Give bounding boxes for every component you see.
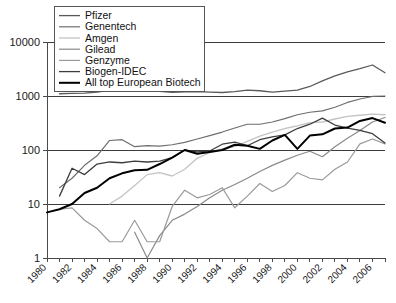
x-tick-label: 2004 <box>325 261 349 285</box>
x-tick-label: 1984 <box>75 261 99 285</box>
series-group <box>47 65 385 258</box>
x-tick-label: 2006 <box>350 261 374 285</box>
x-tick-label: 1980 <box>25 261 49 285</box>
legend-label: Biogen-IDEC <box>85 65 147 77</box>
x-tick-label: 1998 <box>250 261 274 285</box>
legend: PfizerGenentechAmgenGileadGenzymeBiogen-… <box>54 6 204 91</box>
x-tick-label: 1988 <box>125 261 149 285</box>
legend-label: Gilead <box>85 43 116 55</box>
y-tick-label: 100 <box>22 144 40 156</box>
line-chart: 1101001000100001980198219841986198819901… <box>0 0 396 303</box>
x-tick-label: 1990 <box>150 261 174 285</box>
x-tick-label: 1982 <box>50 261 74 285</box>
legend-label: Genentech <box>85 20 137 32</box>
x-tick-label: 2002 <box>300 261 324 285</box>
series-line-genentech <box>60 96 385 188</box>
x-tick-label: 1994 <box>200 261 224 285</box>
legend-label: Genzyme <box>85 54 130 66</box>
y-tick-label: 10000 <box>9 36 40 48</box>
y-axis: 110100100010000 <box>9 36 47 264</box>
legend-label: Pfizer <box>85 9 112 21</box>
x-tick-label: 2000 <box>275 261 299 285</box>
chart-container: 1101001000100001980198219841986198819901… <box>0 0 396 303</box>
legend-label: Amgen <box>85 32 118 44</box>
x-axis: 1980198219841986198819901992199419961998… <box>25 258 385 285</box>
y-tick-label: 10 <box>28 198 40 210</box>
y-tick-label: 1000 <box>16 90 40 102</box>
x-tick-label: 1986 <box>100 261 124 285</box>
series-line-biogen-idec <box>60 118 385 196</box>
legend-label: All top European Biotech <box>85 76 201 88</box>
x-tick-label: 1992 <box>175 261 199 285</box>
series-line-gilead <box>135 117 385 258</box>
x-tick-label: 1996 <box>225 261 249 285</box>
series-line-all-top-european-biotech <box>47 118 385 212</box>
